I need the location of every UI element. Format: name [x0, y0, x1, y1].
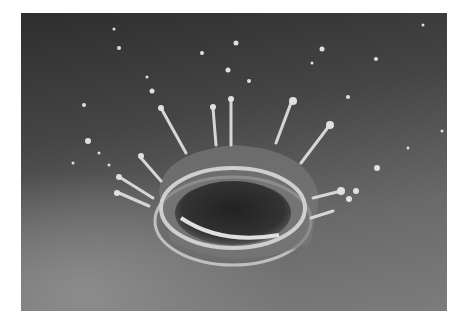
- splash-photo: [21, 13, 447, 311]
- crown-splash: [21, 13, 447, 311]
